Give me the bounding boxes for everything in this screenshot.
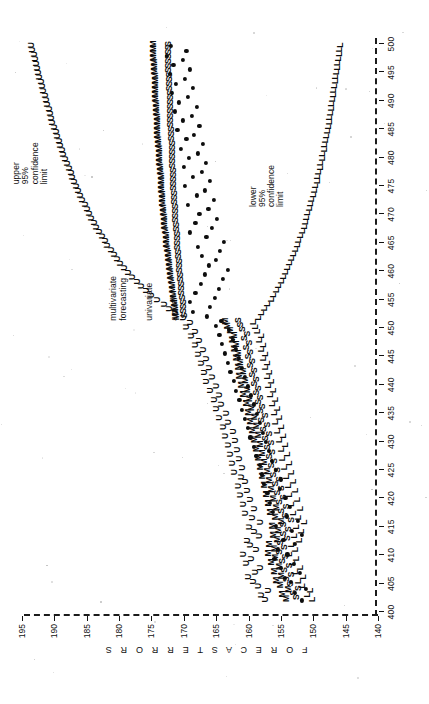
y-tick [119,616,120,621]
data-point-l: L [305,206,313,211]
data-point-l: L [323,129,331,134]
data-point-l: L [271,420,279,425]
y-tick-label: 165 [211,624,221,644]
data-point-l: L [257,347,265,352]
y-tick [22,616,23,621]
data-point-l: L [296,565,304,570]
y-tick [346,616,347,621]
data-point-l: L [266,392,274,397]
y-tick-label: 190 [49,624,59,644]
annotation-lower-confidence-limit: lower 95% confidence limit [249,165,286,207]
x-tick-label: 470 [386,207,396,222]
data-point-u: U [239,551,247,557]
data-point-l: L [263,374,271,379]
y-tick-label: 185 [82,624,92,644]
data-point-l: L [300,520,308,525]
data-point-u: U [241,510,249,516]
data-point-l: L [335,52,343,57]
x-tick-label: 480 [386,150,396,165]
y-tick-label: 140 [373,624,383,644]
data-point-l: L [263,302,271,307]
data-point-l: L [287,256,295,261]
data-point-u: U [229,428,237,434]
data-point-l: L [331,74,339,79]
data-point-l: L [333,65,341,70]
data-point-l: L [306,202,314,207]
data-point-u: U [191,328,199,334]
data-point-l: L [308,597,316,602]
data-point-l: L [273,406,281,411]
data-point-l: L [274,283,282,288]
data-point-l: L [254,315,262,320]
x-tick [379,497,384,498]
data-point-l: L [271,397,279,402]
data-point-l: L [277,447,285,452]
data-point-l: L [292,556,300,561]
x-tick-label: 440 [386,377,396,392]
x-tick [379,185,384,186]
data-point-u: U [195,337,203,343]
x-tick-label: 465 [386,235,396,250]
y-axis-line [24,614,378,616]
y-tick [249,616,250,621]
data-point-l: L [294,238,302,243]
data-point-l: L [316,165,324,170]
data-point-u: U [212,383,220,389]
x-tick [379,299,384,300]
y-axis-title: F O R E C A S T E R R O R S [55,645,355,655]
data-point-l: L [328,97,336,102]
x-tick-label: 475 [386,179,396,194]
data-point-l: L [259,342,267,347]
data-point-u: U [246,496,254,502]
data-point-l: L [287,470,295,475]
data-point-l: L [260,306,268,311]
x-tick-label: 425 [386,463,396,478]
data-point-l: L [318,156,326,161]
data-point-u: U [215,392,223,398]
y-tick [281,616,282,621]
x-tick [379,128,384,129]
annotation-multivariate-forecasting: multivariate forecasting [109,276,127,321]
x-tick [379,611,384,612]
data-point-l: L [333,61,341,66]
x-tick [379,270,384,271]
data-point-l: L [322,133,330,138]
data-point-l: L [279,274,287,279]
data-point-l: L [281,270,289,275]
data-point-l: L [329,93,337,98]
data-point-l: L [325,115,333,120]
data-point-l: L [334,56,342,61]
y-tick [313,616,314,621]
data-point-l: L [300,224,308,229]
data-point-l: L [267,379,275,384]
data-point-l: L [296,233,304,238]
data-point-l: L [291,547,299,552]
data-point-l: L [277,279,285,284]
data-point-l: L [275,438,283,443]
data-point-l: L [327,102,335,107]
y-tick-label: 145 [341,624,351,644]
x-tick-label: 400 [386,605,396,620]
data-point-l: L [313,174,321,179]
data-point-u: U [231,437,239,443]
data-point-l: L [293,242,301,247]
data-point-l: L [265,370,273,375]
data-point-l: L [277,424,285,429]
y-tick [378,616,379,621]
x-tick-label: 485 [386,122,396,137]
data-point-l: L [289,252,297,257]
data-point-l: L [255,338,263,343]
data-point-u: U [224,419,232,425]
data-point-u: U [238,465,246,471]
x-tick-label: 415 [386,519,396,534]
data-point-l: L [291,247,299,252]
data-point-l: L [261,365,269,370]
x-tick-label: 450 [386,321,396,336]
data-point-l: L [303,592,311,597]
x-tick [379,554,384,555]
data-point-l: L [296,506,304,511]
data-point-l: L [321,138,329,143]
data-point-u: U [243,487,251,493]
x-tick-label: 410 [386,548,396,563]
y-tick [151,616,152,621]
